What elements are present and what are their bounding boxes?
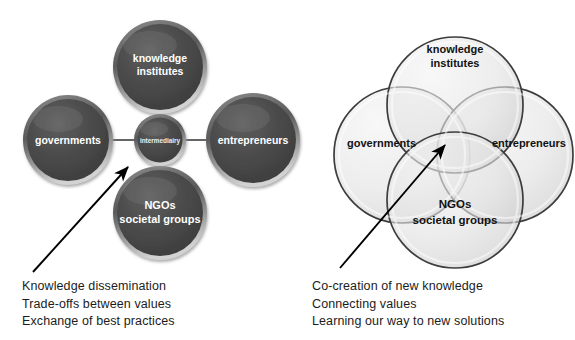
venn-label-knowledge-institutes-line1: knowledge (427, 43, 484, 55)
right-caption-line-3: Learning our way to new solutions (312, 313, 504, 331)
venn-label-entrepreneurs: entrepreneurs (492, 137, 566, 149)
right-caption: Co-creation of new knowledge Connecting … (312, 278, 504, 331)
left-caption-line-3: Exchange of best practices (22, 313, 175, 331)
left-diagram: knowledge institutes governments entrepr… (23, 20, 300, 272)
node-ngos-societal-groups-label-line2: societal groups (119, 213, 200, 225)
node-governments-highlight (33, 106, 83, 132)
venn-label-ngos-societal-groups-line1: NGOs (439, 198, 472, 210)
left-caption: Knowledge dissemination Trade-offs betwe… (22, 278, 175, 331)
right-diagram: knowledge institutes governments entrepr… (334, 37, 573, 268)
node-knowledge-institutes-label-line2: institutes (137, 65, 184, 77)
node-knowledge-institutes-label-line1: knowledge (133, 52, 187, 64)
venn-label-governments: governments (347, 137, 416, 149)
node-governments-label: governments (35, 134, 101, 146)
right-caption-line-1: Co-creation of new knowledge (312, 278, 504, 296)
node-entrepreneurs-label: entrepreneurs (218, 134, 289, 146)
node-intermediary-highlight (140, 122, 168, 136)
node-intermediary-label: intermediairy (140, 137, 181, 145)
venn-label-knowledge-institutes-line2: institutes (431, 57, 480, 69)
node-ngos-societal-groups-label-line1: NGOs (144, 199, 175, 211)
right-caption-line-2: Connecting values (312, 296, 504, 314)
node-entrepreneurs-highlight (216, 104, 270, 132)
diagram-canvas: knowledge institutes governments entrepr… (0, 0, 575, 340)
left-caption-line-1: Knowledge dissemination (22, 278, 175, 296)
venn-label-ngos-societal-groups-line2: societal groups (413, 214, 498, 226)
left-caption-line-2: Trade-offs between values (22, 296, 175, 314)
